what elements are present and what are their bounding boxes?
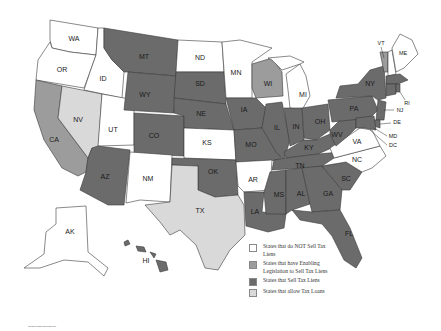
- state-NY[interactable]: [336, 66, 386, 100]
- label-KY: KY: [304, 144, 314, 151]
- legend-item-enabling-legislation: States that have Enabling Legislation to…: [249, 260, 359, 275]
- state-MD[interactable]: [356, 116, 376, 130]
- label-AZ: AZ: [101, 173, 111, 180]
- label-TN: TN: [295, 162, 304, 169]
- label-DE: DE: [393, 119, 401, 125]
- label-IN: IN: [293, 123, 300, 130]
- label-NE: NE: [196, 110, 206, 117]
- legend-label: States that do NOT Sell Tax Liens: [263, 243, 335, 258]
- legend-swatch-enabling: [249, 261, 257, 269]
- label-MS: MS: [274, 191, 285, 198]
- legend-label: States that Sell Tax Liens: [263, 277, 335, 285]
- label-IA: IA: [241, 106, 248, 113]
- label-WV: WV: [331, 131, 343, 138]
- label-TX: TX: [196, 207, 205, 214]
- label-UT: UT: [108, 126, 118, 133]
- legend-item-tax-loans: States that allow Tax Loans: [249, 288, 359, 297]
- label-OR: OR: [57, 66, 68, 73]
- label-NV: NV: [73, 116, 83, 123]
- label-ND: ND: [195, 54, 205, 61]
- label-AR: AR: [248, 176, 258, 183]
- label-NY: NY: [365, 80, 375, 87]
- state-MA[interactable]: [386, 74, 408, 84]
- label-CA: CA: [49, 136, 59, 143]
- label-AK: AK: [65, 228, 75, 235]
- label-ME: ME: [399, 50, 408, 56]
- state-RI[interactable]: [396, 84, 400, 92]
- state-MI[interactable]: [286, 64, 310, 110]
- legend-label: States that allow Tax Loans: [263, 288, 335, 296]
- label-SD: SD: [195, 80, 205, 87]
- label-ID: ID: [100, 75, 107, 82]
- label-IL: IL: [274, 124, 280, 131]
- label-HI: HI: [143, 257, 150, 264]
- us-map: WA OR ID MT ND MN WI MI CA NV UT WY SD N…: [0, 0, 441, 331]
- label-FL: FL: [345, 230, 353, 237]
- label-VT: VT: [377, 40, 385, 46]
- map-credit: Created with mapchart.net: [28, 325, 56, 328]
- label-OK: OK: [208, 168, 218, 175]
- label-MI: MI: [299, 91, 307, 98]
- label-SC: SC: [341, 175, 351, 182]
- label-MN: MN: [231, 69, 242, 76]
- label-WA: WA: [68, 35, 79, 42]
- label-KS: KS: [202, 139, 212, 146]
- label-NM: NM: [143, 175, 154, 182]
- label-WY: WY: [139, 91, 151, 98]
- legend-swatch-no-sell: [249, 244, 257, 252]
- state-CT[interactable]: [386, 84, 396, 96]
- label-RI: RI: [404, 100, 410, 106]
- label-NC: NC: [352, 156, 362, 163]
- label-MD: MD: [389, 133, 398, 139]
- label-OH: OH: [315, 118, 326, 125]
- label-GA: GA: [323, 190, 333, 197]
- legend-item-sell: States that Sell Tax Liens: [249, 277, 359, 286]
- label-LA: LA: [251, 208, 260, 215]
- legend-swatch-sell: [249, 278, 257, 286]
- label-MT: MT: [139, 53, 150, 60]
- label-PA: PA: [350, 105, 359, 112]
- legend-swatch-tax-loans: [249, 289, 257, 297]
- label-AL: AL: [297, 190, 306, 197]
- legend-item-no-sell: States that do NOT Sell Tax Liens: [249, 243, 359, 258]
- state-AK[interactable]: [24, 206, 108, 276]
- label-VA: VA: [353, 138, 362, 145]
- label-CO: CO: [149, 132, 160, 139]
- legend-label: States that have Enabling Legislation to…: [263, 260, 335, 275]
- label-WI: WI: [264, 80, 273, 87]
- legend: States that do NOT Sell Tax Liens States…: [249, 243, 359, 299]
- label-NJ: NJ: [397, 107, 404, 113]
- label-MO: MO: [245, 141, 257, 148]
- label-DC: DC: [389, 142, 397, 148]
